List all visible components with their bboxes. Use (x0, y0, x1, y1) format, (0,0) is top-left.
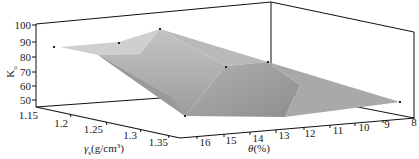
x-tick: 1.2 (54, 117, 68, 129)
z-tick: 100 (15, 19, 32, 31)
y-tick: 8 (411, 116, 417, 128)
x-tick: 1.25 (84, 123, 104, 135)
surface (60, 29, 400, 117)
z-tick: 70 (20, 66, 32, 78)
x-tick: 1.35 (149, 136, 169, 148)
z-tick: 60 (20, 80, 32, 92)
y-tick: 9 (384, 118, 390, 130)
y-tick: 16 (200, 136, 212, 148)
z-tick: 50 (20, 94, 32, 106)
x-tick: 1.15 (19, 109, 39, 121)
y-tick: 15 (226, 134, 238, 146)
y-tick: 12 (305, 127, 316, 139)
z-axis-label: Ku (4, 66, 19, 78)
z-tick: 90 (20, 36, 32, 48)
y-tick: 11 (333, 124, 344, 136)
y-axis-label: θ(%) (248, 142, 270, 155)
surface-chart: 100 90 80 70 60 50 Ku 1.15 1.2 1.25 1.3 … (0, 0, 419, 159)
z-tick: 80 (20, 51, 32, 63)
y-axis: 16 15 14 13 12 11 10 9 8 θ(%) (197, 116, 417, 155)
y-tick: 10 (359, 121, 371, 133)
z-axis: 100 90 80 70 60 50 Ku (4, 19, 36, 106)
x-axis: 1.15 1.2 1.25 1.3 1.35 γs(g/cm3) (19, 109, 169, 157)
y-tick: 13 (279, 129, 291, 141)
x-axis-label: γs(g/cm3) (84, 142, 124, 157)
x-tick: 1.3 (123, 129, 137, 141)
